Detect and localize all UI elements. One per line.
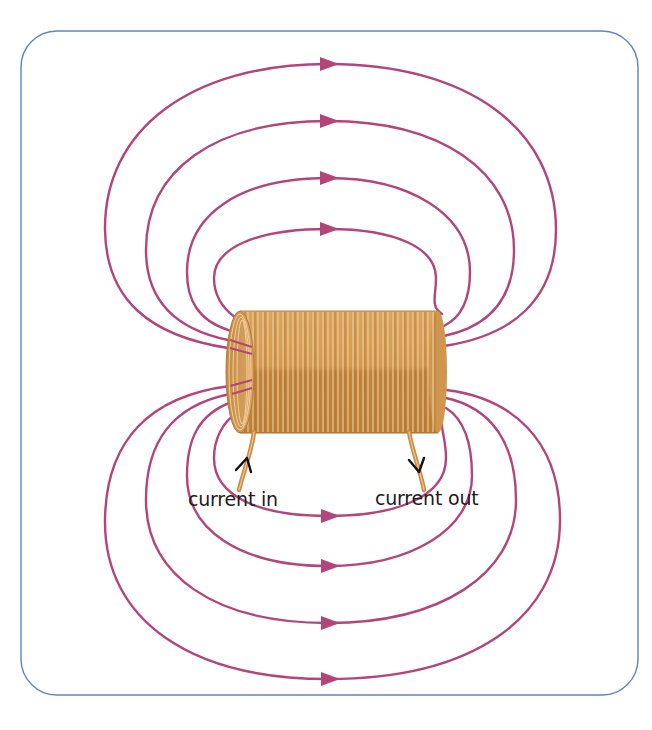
current-in-label: current in xyxy=(188,488,278,510)
solenoid-field-diagram xyxy=(0,0,652,730)
solenoid-coil xyxy=(226,311,447,433)
current-out-label: current out xyxy=(375,487,479,509)
